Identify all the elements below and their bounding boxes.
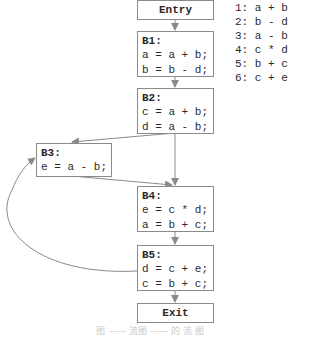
expression-3: 3: a - b	[235, 29, 288, 43]
entry-label: Entry	[159, 4, 192, 16]
figure-caption: 图 —— 流图 —— 的 流 图	[70, 324, 230, 337]
edge-b3-b4	[72, 176, 172, 185]
block-b2: B2: c = a + b; d = a - b;	[137, 88, 214, 134]
block-b1: B1: a = a + b; b = b - d;	[137, 31, 214, 77]
block-b4: B4: e = c * d; a = b + c;	[137, 186, 214, 232]
block-b1-stmt-2: b = b - d;	[142, 63, 209, 78]
block-b5: B5: d = c + e; c = b + c;	[137, 245, 214, 291]
exit-node: Exit	[137, 303, 214, 323]
expression-4: 4: c * d	[235, 43, 288, 57]
expression-6: 6: c + e	[235, 71, 288, 85]
expression-2: 2: b - d	[235, 15, 288, 29]
entry-node: Entry	[137, 0, 214, 20]
block-b5-stmt-1: d = c + e;	[142, 262, 209, 277]
block-b3-stmt-1: e = a - b;	[41, 160, 107, 175]
block-b5-stmt-2: c = b + c;	[142, 277, 209, 292]
expression-list: 1: a + b 2: b - d 3: a - b 4: c * d 5: b…	[235, 1, 288, 85]
block-b4-label: B4:	[142, 189, 209, 203]
block-b2-label: B2:	[142, 91, 209, 105]
exit-label: Exit	[162, 307, 188, 319]
block-b3: B3: e = a - b;	[36, 143, 112, 177]
block-b2-stmt-2: d = a - b;	[142, 120, 209, 135]
expression-1: 1: a + b	[235, 1, 288, 15]
block-b4-stmt-2: a = b + c;	[142, 218, 209, 233]
block-b3-label: B3:	[41, 146, 107, 160]
block-b1-stmt-1: a = a + b;	[142, 48, 209, 63]
block-b2-stmt-1: c = a + b;	[142, 105, 209, 120]
expression-5: 5: b + c	[235, 57, 288, 71]
block-b4-stmt-1: e = c * d;	[142, 203, 209, 218]
block-b1-label: B1:	[142, 34, 209, 48]
block-b5-label: B5:	[142, 248, 209, 262]
